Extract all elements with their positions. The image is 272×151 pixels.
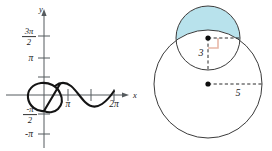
x-tick-label-2pi: 2π: [109, 99, 119, 109]
small-circle-center-dot: [205, 35, 210, 40]
figure-page: y x 3π 2 π -π 2 -π π 2π: [0, 0, 272, 151]
y-axis-group: [41, 9, 46, 148]
figure-right-two-circles: 3 5: [140, 0, 272, 151]
y-tick-label-neg-pi: -π: [25, 129, 33, 139]
y-tick-label-3pi-over-2: 3π 2: [22, 26, 36, 47]
two-circles-svg: 3 5: [140, 0, 272, 151]
curve-chord-segment: [44, 84, 60, 111]
y-tick-label-pi: π: [29, 53, 34, 63]
y-axis-label: y: [38, 4, 43, 14]
y-tick-label-neg-pi-over-2: -π 2: [23, 104, 37, 125]
figure-left-parametric-plot: y x 3π 2 π -π 2 -π π 2π: [0, 0, 140, 151]
x-tick-label-pi: π: [66, 99, 71, 109]
parametric-plot-svg: y x 3π 2 π -π 2 -π π 2π: [0, 0, 140, 151]
large-circle-center-dot: [205, 81, 210, 86]
x-axis-label: x: [132, 90, 137, 100]
large-circle-radius-label: 5: [236, 87, 241, 98]
y-tick-label-3pi-over-2-denominator: 2: [27, 37, 32, 47]
small-circle-radius-label: 3: [198, 47, 204, 58]
x-axis-arrowhead: [122, 92, 129, 97]
y-tick-label-3pi-over-2-numerator: 3π: [24, 26, 34, 36]
y-tick-label-neg-pi-over-2-denominator: 2: [28, 115, 33, 125]
